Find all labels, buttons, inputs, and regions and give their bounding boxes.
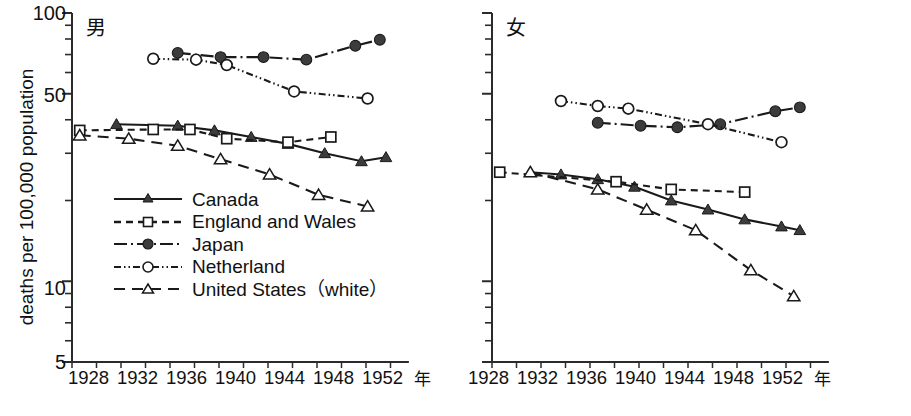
y-tick-labels: 100 50 10 5 bbox=[0, 0, 66, 416]
y-tick-100: 100 bbox=[33, 3, 66, 23]
panel-male: deaths per 100,000 population 100 50 10 … bbox=[0, 0, 460, 416]
x-tick-1940-female: 1940 bbox=[615, 369, 656, 388]
x-tick-1928-female: 1928 bbox=[468, 369, 509, 388]
x-tick-1932-female: 1932 bbox=[517, 369, 558, 388]
x-tick-1940-male: 1940 bbox=[215, 369, 256, 388]
legend-label-japan: Japan bbox=[184, 235, 244, 254]
plot-area-female bbox=[450, 0, 911, 416]
x-tick-1948-female: 1948 bbox=[713, 369, 754, 388]
legend-label-canada: Canada bbox=[184, 190, 259, 209]
x-tick-1952-female: 1952 bbox=[762, 369, 803, 388]
x-axis-unit-female: 年 bbox=[814, 371, 831, 388]
legend-label-england: England and Wales bbox=[184, 212, 356, 231]
x-tick-1952-male: 1952 bbox=[362, 369, 403, 388]
legend-item-usa: United States（white） bbox=[112, 278, 388, 301]
legend-swatch-netherland bbox=[112, 257, 184, 277]
y-tick-50: 50 bbox=[44, 85, 66, 105]
legend-item-england: England and Wales bbox=[112, 211, 388, 234]
x-tick-1944-male: 1944 bbox=[264, 369, 305, 388]
legend: Canada England and Wales Japan bbox=[112, 188, 388, 301]
y-tick-5: 5 bbox=[55, 352, 66, 372]
y-tick-10: 10 bbox=[44, 278, 66, 298]
legend-swatch-japan bbox=[112, 234, 184, 254]
x-tick-1936-female: 1936 bbox=[566, 369, 607, 388]
legend-swatch-canada bbox=[112, 189, 184, 209]
panel-tag-female: 女 bbox=[506, 18, 526, 38]
x-tick-1948-male: 1948 bbox=[313, 369, 354, 388]
legend-label-netherland: Netherland bbox=[184, 257, 285, 276]
legend-item-japan: Japan bbox=[112, 233, 388, 256]
legend-swatch-england bbox=[112, 212, 184, 232]
x-tick-1936-male: 1936 bbox=[166, 369, 207, 388]
x-axis-unit-male: 年 bbox=[414, 371, 431, 388]
legend-item-netherland: Netherland bbox=[112, 256, 388, 279]
chart-figure: deaths per 100,000 population 100 50 10 … bbox=[0, 0, 911, 416]
legend-item-canada: Canada bbox=[112, 188, 388, 211]
legend-swatch-usa bbox=[112, 279, 184, 299]
panel-female: 女 1928 1932 1936 1940 1944 1948 1952 年 bbox=[450, 0, 911, 416]
legend-label-usa: United States（white） bbox=[184, 280, 388, 299]
x-tick-1932-male: 1932 bbox=[117, 369, 158, 388]
panel-tag-male: 男 bbox=[86, 18, 106, 38]
x-tick-1944-female: 1944 bbox=[664, 369, 705, 388]
x-tick-1928-male: 1928 bbox=[68, 369, 109, 388]
